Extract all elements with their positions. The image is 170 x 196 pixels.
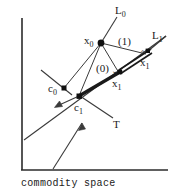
label-x1-check-sub: 1	[118, 83, 122, 92]
diagram-canvas	[0, 0, 170, 196]
label-x1-hat-sub: 1	[146, 62, 150, 71]
label-x1-hat: ˆx1	[140, 57, 150, 71]
point-marker-x0	[98, 40, 105, 47]
hat-accent-icon: ˆ	[141, 50, 144, 60]
origin-pointer-line	[53, 123, 82, 169]
label-L1-base: L	[152, 29, 159, 41]
label-x1-check: ˇx1	[112, 78, 122, 92]
commodity-space-figure: L0 L1 x0 (1) (0) ˆx1 ˇx1 c0 c1 T commodi…	[0, 0, 170, 196]
label-x1-hat-base: ˆx	[140, 57, 146, 68]
label-T-base: T	[113, 118, 120, 130]
label-zero: (0)	[96, 63, 109, 74]
label-c0-sub: 0	[53, 88, 57, 97]
label-L1-sub: 1	[159, 35, 163, 44]
label-c1: c1	[74, 102, 83, 116]
point-marker-c0	[62, 86, 67, 91]
label-L1: L1	[152, 30, 163, 44]
label-x0-sub: 0	[90, 40, 94, 49]
point-marker-c1	[77, 94, 82, 99]
figure-caption: commodity space	[21, 178, 116, 189]
c1-direction-arrowhead	[55, 101, 63, 108]
label-one: (1)	[118, 36, 131, 47]
T-leader-line	[80, 96, 113, 118]
point-marker-x1check	[118, 70, 123, 75]
label-one-text: (1)	[118, 35, 131, 47]
L0-leader-line	[101, 17, 117, 43]
label-L0-base: L	[115, 4, 122, 16]
label-c1-sub: 1	[79, 107, 83, 116]
label-L0-sub: 0	[122, 10, 126, 19]
label-T: T	[113, 119, 120, 130]
label-c0: c0	[48, 83, 57, 97]
label-x1-check-base: ˇx	[112, 78, 118, 89]
label-L0: L0	[115, 5, 126, 19]
point-marker-x1hat	[146, 49, 150, 53]
label-x0: x0	[84, 35, 94, 49]
caron-accent-icon: ˇ	[113, 71, 116, 81]
label-zero-text: (0)	[96, 62, 109, 74]
